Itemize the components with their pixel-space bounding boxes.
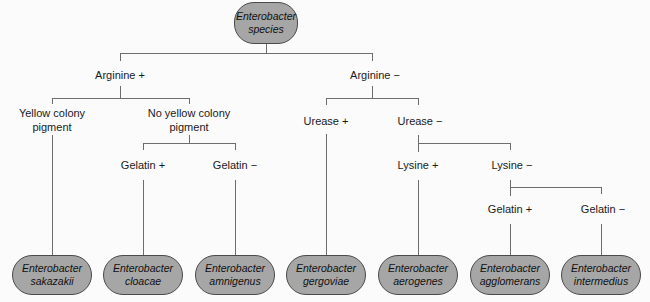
leaf-species: sakazakii (30, 275, 73, 288)
root-species: species (248, 23, 284, 36)
leaf-genus: Enterobacter (22, 262, 82, 275)
connector (143, 143, 144, 150)
connector (418, 98, 419, 105)
urease-negative-label: Urease − (398, 114, 443, 128)
leaf-species: gergoviae (303, 275, 349, 288)
gelatin-negative-label: Gelatin − (213, 158, 257, 172)
connector (601, 187, 602, 194)
leaf-species: agglomerans (480, 275, 541, 288)
gelatin-negative-label-2: Gelatin − (581, 202, 625, 216)
connector (120, 86, 121, 98)
connector (52, 98, 53, 104)
connector (235, 143, 236, 150)
yellow-pigment-label: Yellow colony pigment (10, 106, 94, 134)
leaf-sakazakii: Enterobacter sakazakii (12, 255, 92, 295)
connector (510, 224, 511, 255)
leaf-gergoviae: Enterobacter gergoviae (286, 255, 366, 295)
connector (326, 98, 419, 99)
leaf-amnigenus: Enterobacter amnigenus (195, 255, 275, 295)
leaf-genus: Enterobacter (571, 262, 631, 275)
lysine-positive-label: Lysine + (398, 158, 439, 172)
connector (418, 143, 511, 144)
leaf-genus: Enterobacter (205, 262, 265, 275)
connector (52, 98, 190, 99)
connector (326, 134, 327, 255)
arginine-positive-label: Arginine + (95, 68, 145, 82)
connector (326, 98, 327, 105)
leaf-aerogenes: Enterobacter aerogenes (378, 255, 458, 295)
leaf-species: aerogenes (393, 275, 443, 288)
leaf-genus: Enterobacter (388, 262, 448, 275)
connector (372, 53, 373, 61)
connector (189, 98, 190, 104)
connector (510, 180, 511, 196)
leaf-genus: Enterobacter (296, 262, 356, 275)
connector (372, 86, 373, 98)
connector (418, 180, 419, 255)
lysine-negative-label: Lysine − (492, 158, 533, 172)
connector (189, 135, 190, 143)
connector (120, 53, 373, 54)
leaf-intermedius: Enterobacter intermedius (561, 255, 641, 295)
connector (510, 143, 511, 150)
connector (235, 180, 236, 255)
connector (510, 187, 602, 188)
leaf-cloacae: Enterobacter cloacae (103, 255, 183, 295)
connector (601, 224, 602, 255)
urease-positive-label: Urease + (304, 114, 349, 128)
root-genus: Enterobacter (236, 10, 296, 23)
gelatin-positive-label-2: Gelatin + (488, 202, 532, 216)
leaf-agglomerans: Enterobacter agglomerans (470, 255, 550, 295)
leaf-genus: Enterobacter (480, 262, 540, 275)
connector (143, 180, 144, 255)
arginine-negative-label: Arginine − (350, 68, 400, 82)
connector (120, 53, 121, 61)
identification-flowchart: Enterobacter species Arginine + Arginine… (0, 0, 650, 302)
leaf-genus: Enterobacter (113, 262, 173, 275)
leaf-species: intermedius (574, 275, 628, 288)
gelatin-positive-label: Gelatin + (121, 158, 165, 172)
root-node: Enterobacter species (234, 2, 298, 44)
connector (52, 135, 53, 255)
no-yellow-pigment-label: No yellow colony pigment (139, 106, 239, 134)
leaf-species: cloacae (125, 275, 161, 288)
connector (143, 143, 236, 144)
connector (266, 44, 267, 53)
leaf-species: amnigenus (209, 275, 260, 288)
